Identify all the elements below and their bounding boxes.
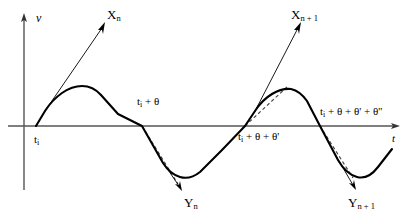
xn1-arrowhead: [294, 22, 301, 34]
t-axis-label: t: [392, 133, 395, 144]
time-label-ti-theta-suffix: + θ: [142, 95, 159, 107]
event-label-yn-sub: n: [193, 201, 197, 211]
event-label-yn1-sub: n + 1: [357, 201, 375, 211]
event-label-xn1-main: X: [291, 7, 300, 22]
event-label-xn-sub: n: [116, 13, 120, 23]
event-label-xn: Xn: [107, 8, 121, 22]
event-label-xn-main: X: [107, 7, 116, 22]
time-label-ti-sub: i: [37, 138, 39, 147]
time-label-ti: ti: [34, 134, 39, 147]
event-label-xn1: Xn + 1: [291, 8, 318, 22]
time-label-ti-theta-thetap-thetapp: ti + θ + θ' + θ'': [320, 106, 382, 119]
xn-arrow-shaft: [45, 28, 102, 111]
event-label-xn1-sub: n + 1: [300, 13, 318, 23]
event-label-yn1: Yn + 1: [348, 196, 375, 210]
time-label-ti-theta-thetap-suffix: + θ + θ': [243, 130, 279, 142]
yn-arrow-shaft: [160, 158, 179, 186]
time-label-ti-theta-thetap: ti + θ + θ': [238, 131, 279, 144]
tangent-dashed-xn1: [245, 86, 288, 126]
yn-arrowhead: [175, 181, 182, 191]
xn1-arrow-shaft: [254, 28, 298, 113]
event-label-yn-main: Y: [184, 195, 193, 210]
yn1-arrowhead: [349, 180, 356, 190]
signal-waveform: [36, 86, 392, 178]
time-label-ti-theta-thetap-thetapp-suffix: + θ + θ' + θ'': [325, 105, 382, 117]
v-axis-label: v: [36, 12, 41, 24]
event-label-yn1-main: Y: [348, 195, 357, 210]
waveform-diagram: v t ti ti + θ ti + θ + θ' ti + θ + θ' + …: [0, 0, 411, 217]
time-label-ti-theta: ti + θ: [137, 96, 159, 109]
event-label-yn: Yn: [184, 196, 198, 210]
yn1-arrow-shaft: [336, 156, 353, 185]
